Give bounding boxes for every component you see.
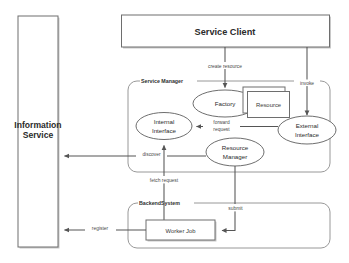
backend-system-label: BackendSystem (139, 200, 180, 206)
information-service-node[interactable]: Information Service (14, 16, 61, 249)
edge-forward-request: forward request (197, 118, 279, 134)
edge-discover: discover (65, 150, 207, 157)
service-client-node[interactable]: Service Client (122, 15, 332, 49)
factory-label: Factory (215, 100, 237, 107)
information-service-label-line1: Information (14, 120, 61, 130)
edge-invoke: invoke (294, 47, 320, 115)
internal-interface-label-line2: Interface (152, 127, 177, 134)
edge-label-fetch-request: fetch request (150, 178, 179, 183)
resource-manager-node[interactable]: Resource Manager (206, 138, 264, 166)
edge-label-register: register (92, 226, 109, 231)
internal-interface-node[interactable]: Internal Interface (136, 113, 192, 140)
service-manager-label: Service Manager (141, 78, 183, 84)
edge-label-create-resource: create resource (208, 64, 242, 69)
worker-job-label: Worker Job (165, 228, 196, 234)
external-interface-label-line1: External (296, 122, 319, 129)
service-client-label: Service Client (195, 27, 256, 37)
resource-node[interactable]: Resource (243, 87, 290, 118)
resource-manager-label-line2: Manager (223, 153, 247, 160)
external-interface-node[interactable]: External Interface (278, 116, 336, 144)
edge-label-forward-request-line2: request (213, 127, 230, 132)
external-interface-label-line2: Interface (295, 131, 320, 138)
worker-job-node[interactable]: Worker Job (146, 220, 217, 242)
edge-label-discover: discover (142, 152, 161, 157)
edge-label-submit: submit (228, 206, 243, 211)
edge-submit: submit (222, 166, 249, 231)
resource-label: Resource (256, 102, 282, 108)
edge-label-forward-request-line1: forward (213, 120, 230, 125)
internal-interface-label-line1: Internal (154, 118, 175, 125)
diagram-canvas: Information Service Service Client Servi… (0, 0, 349, 263)
service-architecture-diagram: Information Service Service Client Servi… (0, 0, 349, 263)
edge-register: register (65, 224, 147, 231)
edge-label-invoke: invoke (300, 81, 314, 86)
resource-manager-label-line1: Resource (222, 144, 249, 151)
information-service-label-line2: Service (23, 130, 54, 140)
